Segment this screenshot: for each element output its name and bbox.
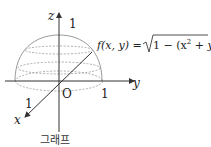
svg-text:f(x, y) =: f(x, y) = — [96, 39, 142, 52]
z-tick-1: 1 — [69, 17, 77, 31]
z-axis-label: z — [47, 9, 55, 23]
function-label: f(x, y) = 1 − (x2 + y2) — [96, 35, 211, 52]
x-axis-label: x — [14, 113, 21, 127]
x-tick-1: 1 — [25, 97, 33, 111]
y-axis-label: y — [132, 76, 140, 90]
origin-label: O — [62, 87, 72, 101]
caption: 그래프 — [40, 134, 70, 147]
svg-text:1 − (x2 + y2): 1 − (x2 + y2) — [153, 38, 211, 52]
y-tick-1: 1 — [101, 87, 109, 101]
hemisphere-diagram: z 1 y 1 O 1 x f(x, y) = 1 − (x2 + y2) 그래… — [0, 0, 211, 147]
